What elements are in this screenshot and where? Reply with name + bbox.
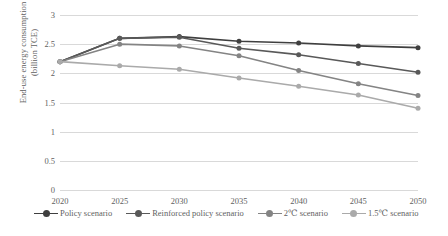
data-point-marker	[356, 43, 361, 48]
data-point-marker	[296, 52, 301, 57]
data-point-marker	[416, 93, 421, 98]
y-axis-title-line-1: End-use energy consumption	[18, 0, 29, 133]
x-axis-tick-label: 2030	[171, 196, 188, 206]
data-point-marker	[237, 46, 242, 51]
series-layer	[60, 15, 418, 190]
legend-marker-icon	[34, 209, 58, 218]
data-point-marker	[296, 84, 301, 89]
data-point-marker	[296, 68, 301, 73]
data-point-marker	[117, 42, 122, 47]
gridline	[60, 190, 418, 191]
data-point-marker	[237, 39, 242, 44]
x-axis-tick-label: 2050	[410, 196, 427, 206]
x-axis-tick-label: 2040	[290, 196, 307, 206]
x-axis-tick-label: 2025	[111, 196, 128, 206]
x-axis-tick-label: 2035	[231, 196, 248, 206]
data-point-marker	[356, 61, 361, 66]
y-axis-title-line-2: (billion TCE)	[28, 0, 39, 133]
data-point-marker	[416, 45, 421, 50]
x-axis-tick-label: 2045	[350, 196, 367, 206]
data-point-marker	[416, 106, 421, 111]
legend-label: Reinforced policy scenario	[152, 208, 244, 218]
y-axis-tick-label: 3	[51, 10, 55, 20]
legend-marker-icon	[126, 209, 150, 218]
data-point-marker	[117, 63, 122, 68]
legend-item[interactable]: Reinforced policy scenario	[126, 208, 244, 218]
legend-item[interactable]: 1.5℃ scenario	[342, 208, 419, 218]
series-line	[60, 44, 418, 95]
legend-label: Policy scenario	[60, 208, 112, 218]
y-axis-tick-label: 0	[51, 185, 55, 195]
plot-area: 00.511.522.53 20202025203020352040204520…	[60, 15, 418, 190]
data-point-marker	[177, 67, 182, 72]
legend-item[interactable]: Policy scenario	[34, 208, 112, 218]
data-point-marker	[58, 59, 63, 64]
data-point-marker	[177, 35, 182, 40]
data-point-marker	[356, 92, 361, 97]
y-axis-tick-label: 0.5	[44, 156, 55, 166]
legend-item[interactable]: 2℃ scenario	[258, 208, 328, 218]
data-point-marker	[117, 36, 122, 41]
data-point-marker	[237, 53, 242, 58]
data-point-marker	[416, 70, 421, 75]
y-axis-title: End-use energy consumption (billion TCE)	[18, 0, 39, 133]
chart-legend: Policy scenarioReinforced policy scenari…	[34, 208, 444, 218]
legend-marker-icon	[258, 209, 282, 218]
legend-label: 2℃ scenario	[284, 208, 328, 218]
y-axis-tick-label: 1.5	[44, 98, 55, 108]
x-axis-tick-label: 2020	[52, 196, 69, 206]
data-point-marker	[177, 43, 182, 48]
data-point-marker	[356, 81, 361, 86]
line-chart: End-use energy consumption (billion TCE)…	[0, 0, 448, 236]
y-axis-tick-label: 2.5	[44, 39, 55, 49]
data-point-marker	[237, 76, 242, 81]
y-axis-tick-label: 1	[51, 127, 55, 137]
legend-label: 1.5℃ scenario	[368, 208, 419, 218]
y-axis-tick-label: 2	[51, 68, 55, 78]
legend-marker-icon	[342, 209, 366, 218]
data-point-marker	[296, 41, 301, 46]
